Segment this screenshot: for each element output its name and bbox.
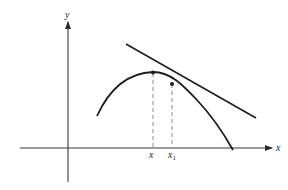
point-x <box>151 71 155 75</box>
tangent-diagram: y x x x1 <box>0 0 288 190</box>
y-axis-label: y <box>64 9 70 20</box>
x-axis-label: x <box>275 142 281 153</box>
label-x1: x1 <box>167 149 176 162</box>
label-x1-subscript: 1 <box>172 154 176 162</box>
tangent-line <box>126 44 256 118</box>
point-x1 <box>170 82 174 86</box>
curve <box>97 72 233 150</box>
label-x: x <box>148 149 154 160</box>
